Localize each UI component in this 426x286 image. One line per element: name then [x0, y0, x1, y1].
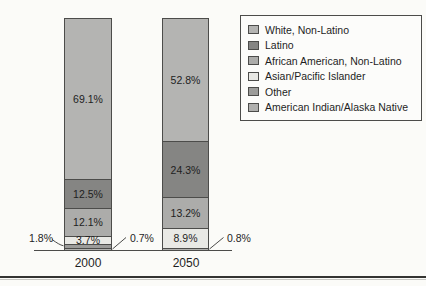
legend-swatch-icon [248, 41, 259, 50]
legend-item-label: African American, Non-Latino [265, 55, 402, 67]
legend-swatch-icon [248, 87, 259, 96]
legend-swatch-icon [248, 72, 259, 81]
legend-item-african-american: African American, Non-Latino [248, 53, 415, 69]
callout-label-other-2000: 1.8% [24, 232, 53, 244]
callout-line-other-2000 [52, 240, 64, 246]
callout-label-american-indian-2000: 0.7% [130, 232, 154, 244]
bar-segment: 13.2% [163, 197, 208, 227]
legend-item-label: White, Non-Latino [265, 24, 349, 36]
bar-segment: 24.3% [163, 141, 208, 197]
bottom-divider-rule-shadow [0, 279, 426, 280]
legend-swatch-icon [248, 25, 259, 34]
legend-item-label: Other [265, 86, 291, 98]
legend: White, Non-Latino Latino African America… [240, 15, 422, 121]
bar-segment [65, 248, 111, 250]
legend-swatch-icon [248, 103, 259, 112]
legend-item-other: Other [248, 84, 415, 100]
legend-item-label: American Indian/Alaska Native [265, 101, 408, 113]
callout-line-american-indian-2000 [113, 238, 127, 250]
legend-item-asian-pacific-islander: Asian/Pacific Islander [248, 69, 415, 85]
bottom-divider-rule [0, 276, 426, 278]
legend-item-latino: Latino [248, 38, 415, 54]
legend-item-american-indian: American Indian/Alaska Native [248, 100, 415, 116]
x-axis-label-2050: 2050 [162, 256, 210, 270]
legend-item-white-non-latino: White, Non-Latino [248, 22, 415, 38]
bar-segment [163, 248, 208, 250]
bar-segment: 52.8% [163, 19, 208, 141]
bar-segment: 12.1% [65, 208, 111, 236]
bar-segment: 8.9% [163, 228, 208, 249]
callout-label-american-indian-2050: 0.8% [227, 232, 251, 244]
bar-2050: 52.8%24.3%13.2%8.9% [162, 18, 209, 251]
callout-line-american-indian-2050 [210, 238, 224, 250]
x-axis-label-2000: 2000 [64, 256, 112, 270]
legend-item-label: Asian/Pacific Islander [265, 70, 365, 82]
bar-segment: 69.1% [65, 19, 111, 179]
figure: 69.1%12.5%12.1%3.7% 52.8%24.3%13.2%8.9% … [0, 0, 426, 286]
legend-item-label: Latino [265, 39, 294, 51]
bar-2000: 69.1%12.5%12.1%3.7% [64, 18, 112, 251]
bar-segment: 3.7% [65, 236, 111, 245]
bar-segment: 12.5% [65, 179, 111, 208]
legend-swatch-icon [248, 56, 259, 65]
